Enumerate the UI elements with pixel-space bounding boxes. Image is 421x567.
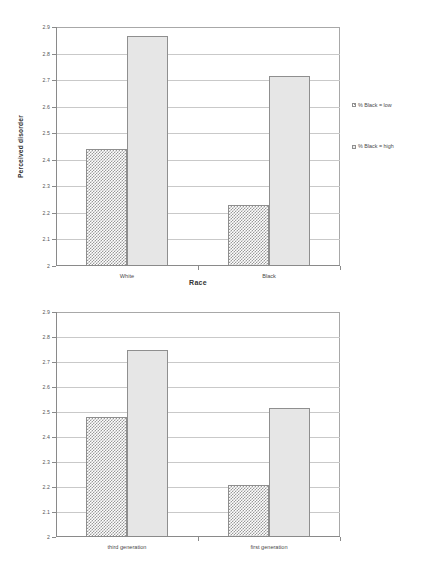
- y-tick-label: 2.2: [42, 210, 50, 216]
- y-tick-label: 2.5: [42, 409, 50, 415]
- y-tick-label: 2.8: [42, 51, 50, 57]
- x-tick: [340, 537, 341, 541]
- y-tick-label: 2.5: [42, 130, 50, 136]
- bar-low: [86, 149, 127, 266]
- legend-swatch-low-icon: [352, 103, 356, 107]
- y-tick-label: 2.6: [42, 384, 50, 390]
- y-tick-label: 2.6: [42, 104, 50, 110]
- x-axis-line: [56, 265, 340, 266]
- y-tick-label: 2.8: [42, 334, 50, 340]
- bar-high: [269, 408, 310, 537]
- y-tick-label: 2.4: [42, 434, 50, 440]
- y-tick-label: 2.3: [42, 459, 50, 465]
- legend-label: % Black = high: [358, 144, 394, 149]
- x-tick: [198, 537, 199, 541]
- gridline: [56, 362, 340, 363]
- x-category-label: first generation: [250, 544, 287, 550]
- gridline: [56, 54, 340, 55]
- bar-low: [228, 205, 269, 266]
- y-axis-line: [56, 312, 57, 537]
- x-tick: [340, 266, 341, 270]
- legend-label: % Black = low: [358, 103, 392, 108]
- bar-low: [228, 485, 269, 538]
- y-tick-label: 2.2: [42, 484, 50, 490]
- y-tick: [52, 266, 56, 267]
- y-tick: [52, 537, 56, 538]
- legend-top: % Black = low% Black = high: [352, 103, 421, 150]
- y-axis-title: Perceived disorder: [17, 115, 24, 178]
- plot-area-top: 2.92.82.72.62.52.42.32.22.12 WhiteBlack: [56, 27, 340, 266]
- gridline: [56, 337, 340, 338]
- x-axis-line: [56, 536, 340, 537]
- legend-item: % Black = high: [352, 144, 421, 149]
- legend-swatch-high-icon: [352, 145, 356, 149]
- y-tick-label: 2.7: [42, 359, 50, 365]
- bar-high: [127, 350, 168, 538]
- legend-item: % Black = low: [352, 103, 421, 108]
- y-tick-label: 2.1: [42, 236, 50, 242]
- bar-high: [269, 76, 310, 266]
- y-tick-label: 2: [47, 263, 50, 269]
- y-tick-label: 2: [47, 534, 50, 540]
- plot-area-bottom: 2.92.82.72.62.52.42.32.22.12 third gener…: [56, 312, 340, 537]
- y-tick-label: 2.1: [42, 509, 50, 515]
- bar-low: [86, 417, 127, 537]
- y-tick-label: 2.7: [42, 77, 50, 83]
- y-axis-line: [56, 27, 57, 266]
- chart-perceived-disorder-by-race: Perceived disorder 2.92.82.72.62.52.42.3…: [0, 0, 421, 290]
- gridline: [56, 387, 340, 388]
- chart-perceived-disorder-by-generation: perceived disorder 2.92.82.72.62.52.42.3…: [0, 290, 421, 567]
- x-category-label: third generation: [108, 544, 147, 550]
- y-tick-label: 2.9: [42, 24, 50, 30]
- x-tick: [198, 266, 199, 270]
- y-tick-label: 2.3: [42, 183, 50, 189]
- y-tick-label: 2.9: [42, 309, 50, 315]
- x-axis-title: Race: [0, 279, 396, 286]
- y-tick-label: 2.4: [42, 157, 50, 163]
- bar-high: [127, 36, 168, 266]
